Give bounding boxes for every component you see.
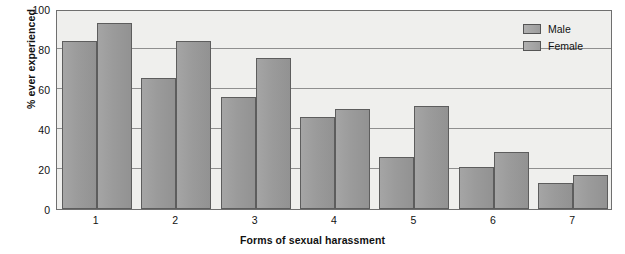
y-axis-tick-label: 100	[24, 5, 50, 16]
x-axis-tick-label: 6	[463, 214, 523, 226]
y-axis-tick-label: 40	[24, 125, 50, 136]
y-axis-tick-labels: 020406080100	[20, 0, 50, 254]
bar	[97, 23, 132, 209]
y-axis-tick-label: 60	[24, 85, 50, 96]
bar	[300, 117, 335, 209]
x-axis-title: Forms of sexual harassment	[0, 234, 625, 246]
bar	[335, 109, 370, 209]
legend: Male Female	[523, 22, 603, 56]
legend-item-male: Male	[523, 22, 603, 36]
x-axis-tick-label: 7	[542, 214, 602, 226]
y-axis-tick-label: 0	[24, 205, 50, 216]
x-axis-tick-label: 5	[383, 214, 443, 226]
x-axis-tick-label: 1	[66, 214, 126, 226]
legend-item-female: Female	[523, 39, 603, 53]
bar	[141, 78, 176, 209]
bar	[221, 97, 256, 209]
legend-label: Female	[548, 41, 583, 52]
bar	[538, 183, 573, 209]
legend-label: Male	[548, 24, 571, 35]
bar	[379, 157, 414, 209]
bar-chart: % ever experienced 020406080100 1234567 …	[0, 0, 625, 254]
legend-swatch-icon	[523, 24, 541, 34]
bar	[459, 167, 494, 209]
bar	[62, 41, 97, 209]
x-axis-tick-label: 2	[145, 214, 205, 226]
bar	[176, 41, 211, 209]
bar	[494, 152, 529, 209]
x-axis-tick-label: 3	[225, 214, 285, 226]
bar	[414, 106, 449, 209]
legend-swatch-icon	[523, 41, 541, 51]
bar	[256, 58, 291, 209]
y-axis-tick-label: 20	[24, 165, 50, 176]
y-axis-tick-label: 80	[24, 45, 50, 56]
x-axis-tick-label: 4	[304, 214, 364, 226]
bar	[573, 175, 608, 209]
